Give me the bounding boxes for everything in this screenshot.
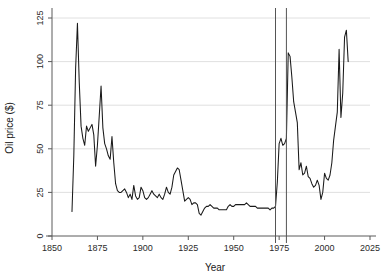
y-tick-label-0: 0 xyxy=(35,233,45,238)
x-tick-label-1875: 1875 xyxy=(87,243,107,253)
chart-figure: 0255075100125 18501875190019251950197520… xyxy=(0,0,382,275)
x-tick-label-1900: 1900 xyxy=(133,243,153,253)
chart-background xyxy=(0,0,382,275)
y-tick-label-75: 75 xyxy=(35,100,45,110)
x-axis-title: Year xyxy=(205,262,226,273)
x-tick-label-1975: 1975 xyxy=(269,243,289,253)
oil-price-line-chart: 0255075100125 18501875190019251950197520… xyxy=(0,0,382,275)
y-tick-label-50: 50 xyxy=(35,144,45,154)
y-tick-label-100: 100 xyxy=(35,54,45,69)
x-tick-label-1950: 1950 xyxy=(224,243,244,253)
x-tick-label-1850: 1850 xyxy=(42,243,62,253)
x-tick-label-2000: 2000 xyxy=(315,243,335,253)
y-tick-label-125: 125 xyxy=(35,10,45,25)
x-tick-label-1925: 1925 xyxy=(178,243,198,253)
y-axis-title: Oil price ($) xyxy=(4,102,15,154)
x-tick-label-2025: 2025 xyxy=(360,243,380,253)
y-tick-label-25: 25 xyxy=(35,187,45,197)
